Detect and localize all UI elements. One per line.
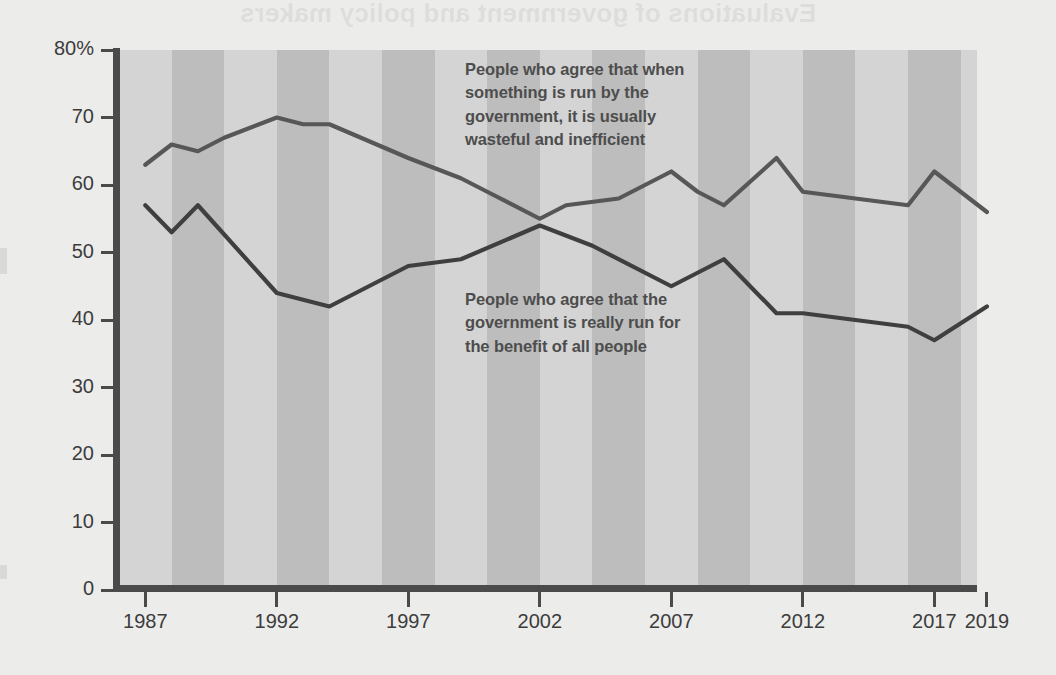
- y-axis-label: 70: [34, 105, 94, 128]
- background-band: [750, 50, 803, 590]
- x-tick: [985, 592, 988, 607]
- x-axis-label: 1997: [373, 610, 443, 633]
- background-band: [803, 50, 856, 590]
- x-tick: [407, 592, 410, 607]
- y-axis-label: 80%: [34, 37, 94, 60]
- background-band: [172, 50, 225, 590]
- y-tick: [101, 386, 113, 389]
- y-axis-label: 0: [34, 577, 94, 600]
- y-tick: [101, 319, 113, 322]
- y-tick: [101, 49, 113, 52]
- x-axis-label: 2019: [952, 610, 1022, 633]
- y-tick: [101, 454, 113, 457]
- y-axis-label: 50: [34, 240, 94, 263]
- x-axis: [113, 585, 977, 592]
- annotation-wasteful-inefficient: People who agree that when something is …: [465, 58, 684, 152]
- background-band: [382, 50, 435, 590]
- x-tick: [670, 592, 673, 607]
- annotation-benefit-all-people: People who agree that the government is …: [465, 288, 680, 358]
- y-axis-label: 20: [34, 442, 94, 465]
- y-axis-label: 30: [34, 375, 94, 398]
- background-band: [277, 50, 330, 590]
- y-tick: [101, 116, 113, 119]
- y-tick: [101, 184, 113, 187]
- y-tick: [101, 589, 113, 592]
- x-axis-label: 2012: [768, 610, 838, 633]
- x-axis-label: 1992: [242, 610, 312, 633]
- background-band: [855, 50, 908, 590]
- page-background: Evaluations of government and policy mak…: [0, 0, 1056, 675]
- background-band: [698, 50, 751, 590]
- y-axis-label: 40: [34, 307, 94, 330]
- x-axis-label: 1987: [110, 610, 180, 633]
- x-axis-label: 2002: [505, 610, 575, 633]
- y-tick: [101, 521, 113, 524]
- y-tick: [101, 251, 113, 254]
- x-tick: [538, 592, 541, 607]
- background-band: [961, 50, 977, 590]
- background-band: [329, 50, 382, 590]
- y-axis: [113, 48, 120, 592]
- x-tick: [275, 592, 278, 607]
- background-band: [119, 50, 172, 590]
- x-tick: [801, 592, 804, 607]
- y-axis-label: 60: [34, 172, 94, 195]
- x-tick: [933, 592, 936, 607]
- background-band: [224, 50, 277, 590]
- line-chart: 80%706050403020100 198719921997200220072…: [0, 0, 1056, 675]
- x-tick: [144, 592, 147, 607]
- y-axis-label: 10: [34, 510, 94, 533]
- background-band: [908, 50, 961, 590]
- x-axis-label: 2007: [636, 610, 706, 633]
